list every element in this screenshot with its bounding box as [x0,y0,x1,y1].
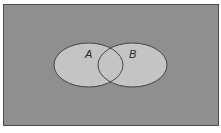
venn-diagram: A B [0,0,221,133]
set-a-label: A [84,48,92,60]
set-b-label: B [129,48,136,60]
